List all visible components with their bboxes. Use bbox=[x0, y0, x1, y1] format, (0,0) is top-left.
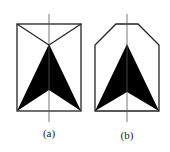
figure-a-label: (a) bbox=[43, 127, 55, 139]
figure-b bbox=[95, 14, 159, 122]
diagram-canvas bbox=[0, 0, 170, 152]
figure-a-diagonal-left bbox=[17, 24, 49, 45]
figure-a-diagonal-right bbox=[49, 24, 81, 45]
figure-b-label: (b) bbox=[121, 129, 134, 141]
figure-a bbox=[17, 14, 81, 122]
